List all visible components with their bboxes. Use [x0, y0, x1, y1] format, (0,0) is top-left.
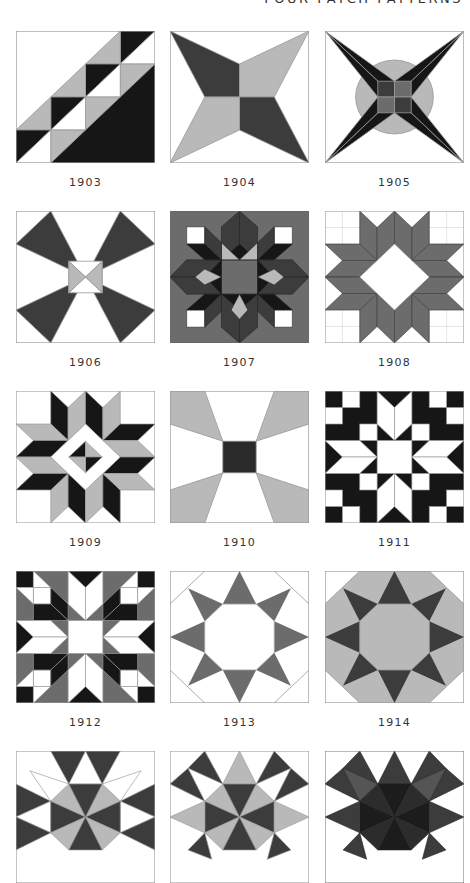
page-header: FOUR-PATCH PATTERNS: [264, 0, 463, 6]
quilt-block-1912: [16, 571, 155, 703]
block-label: 1911: [325, 536, 464, 549]
block-label: 1913: [170, 716, 309, 729]
quilt-block-1907: [170, 211, 309, 343]
quilt-block-1910: [170, 391, 309, 523]
block-label: 1906: [16, 356, 155, 369]
quilt-block-1913: [170, 571, 309, 703]
quilt-block-1905: [325, 31, 464, 163]
quilt-block-1915: [16, 751, 155, 883]
block-label: 1907: [170, 356, 309, 369]
block-label: 1903: [16, 176, 155, 189]
quilt-block-1911: [325, 391, 464, 523]
block-label: 1908: [325, 356, 464, 369]
block-label: 1904: [170, 176, 309, 189]
quilt-block-1909: [16, 391, 155, 523]
quilt-block-1916: [170, 751, 309, 883]
block-label: 1910: [170, 536, 309, 549]
block-label: 1909: [16, 536, 155, 549]
quilt-block-1914: [325, 571, 464, 703]
block-label: 1905: [325, 176, 464, 189]
quilt-block-1903: [16, 31, 155, 163]
quilt-block-1908: [325, 211, 464, 343]
block-label: 1912: [16, 716, 155, 729]
quilt-block-1904: [170, 31, 309, 163]
quilt-block-1906: [16, 211, 155, 343]
block-label: 1914: [325, 716, 464, 729]
quilt-block-1917: [325, 751, 464, 883]
